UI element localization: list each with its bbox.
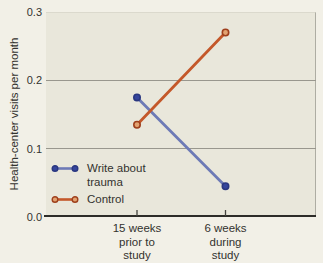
data-point-marker: [134, 122, 140, 128]
data-point-marker: [134, 94, 140, 100]
line-chart-figure: Health-center visits per month 0.00.10.2…: [0, 0, 323, 263]
legend-label: Write about trauma: [87, 162, 169, 189]
data-point-marker: [222, 183, 228, 189]
legend-marker-icon: [50, 162, 80, 175]
legend-item: Write about trauma: [50, 162, 169, 189]
data-point-marker: [222, 29, 228, 35]
legend-marker-icon: [50, 193, 80, 206]
legend-label: Control: [87, 193, 169, 207]
legend: Write about traumaControl: [50, 162, 169, 211]
series-line: [137, 33, 226, 125]
chart-canvas: [0, 0, 323, 263]
legend-item: Control: [50, 193, 169, 207]
